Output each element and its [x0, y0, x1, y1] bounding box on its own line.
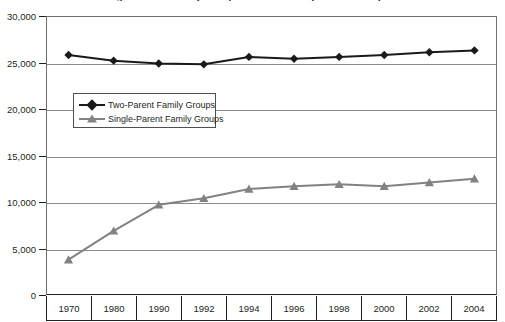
legend-item-single-parent: Single-Parent Family Groups — [79, 112, 210, 126]
plot-area — [46, 16, 497, 295]
gridline-10000 — [47, 203, 496, 204]
x-tick-1980: 1980 — [91, 296, 136, 320]
y-axis-tick-marks — [0, 0, 46, 322]
x-tick-2000: 2000 — [361, 296, 406, 320]
y-tick-mark — [39, 202, 46, 203]
x-tick-2004: 2004 — [451, 296, 496, 320]
y-tick-mark — [39, 295, 46, 296]
y-tick-mark — [39, 156, 46, 157]
chart-title: Two-Parent and Single-Parent Family Grou… — [22, 0, 381, 1]
x-tick-1990: 1990 — [136, 296, 181, 320]
y-tick-mark — [39, 109, 46, 110]
legend-key-diamond-icon — [79, 99, 105, 111]
x-tick-1992: 1992 — [181, 296, 226, 320]
gridline-25000 — [47, 64, 496, 65]
gridline-5000 — [47, 250, 496, 251]
legend-key-triangle-icon — [79, 113, 105, 125]
chart-legend: Two-Parent Family Groups Single-Parent F… — [73, 93, 216, 128]
y-tick-mark — [39, 63, 46, 64]
legend-item-two-parent: Two-Parent Family Groups — [79, 98, 210, 112]
gridline-15000 — [47, 157, 496, 158]
legend-label: Single-Parent Family Groups — [108, 114, 224, 124]
x-tick-1998: 1998 — [316, 296, 361, 320]
y-tick-mark — [39, 249, 46, 250]
x-axis: 1970 1980 1990 1992 1994 1996 1998 2000 … — [46, 296, 497, 321]
y-tick-mark — [39, 16, 46, 17]
x-tick-1970: 1970 — [46, 296, 91, 320]
x-tick-2002: 2002 — [406, 296, 451, 320]
x-tick-1996: 1996 — [271, 296, 316, 320]
legend-label: Two-Parent Family Groups — [108, 100, 215, 110]
x-tick-1994: 1994 — [226, 296, 271, 320]
